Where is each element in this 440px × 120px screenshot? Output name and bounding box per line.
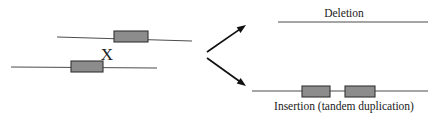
- insertion-label: Insertion (tandem duplication): [274, 100, 414, 113]
- diagram-canvas: X Deletion Insertion (tandem duplication…: [0, 0, 440, 120]
- bottom-chromosome: [11, 61, 157, 72]
- duplicated-segment-2: [345, 86, 375, 97]
- arrow-to-deletion-shaft: [207, 28, 241, 52]
- unequal-crossing-over-diagram: X Deletion Insertion (tandem duplication…: [0, 0, 440, 120]
- outcome-arrows-group: [207, 25, 246, 86]
- outcome-insertion: Insertion (tandem duplication): [252, 86, 428, 113]
- top-chromosome: [57, 31, 192, 42]
- arrow-to-insertion-head: [237, 78, 246, 86]
- top-chromosome-segment: [114, 31, 148, 42]
- arrow-to-deletion-head: [237, 25, 246, 33]
- arrow-to-deletion: [207, 25, 246, 52]
- deletion-label: Deletion: [324, 7, 364, 19]
- crossover-marker-x: X: [101, 45, 113, 64]
- outcome-deletion: Deletion: [278, 7, 428, 22]
- arrow-to-insertion-shaft: [207, 58, 241, 83]
- parent-chromosomes-group: X: [11, 31, 192, 72]
- arrow-to-insertion: [207, 58, 246, 86]
- duplicated-segment-1: [302, 86, 330, 97]
- bottom-chromosome-segment: [71, 61, 103, 72]
